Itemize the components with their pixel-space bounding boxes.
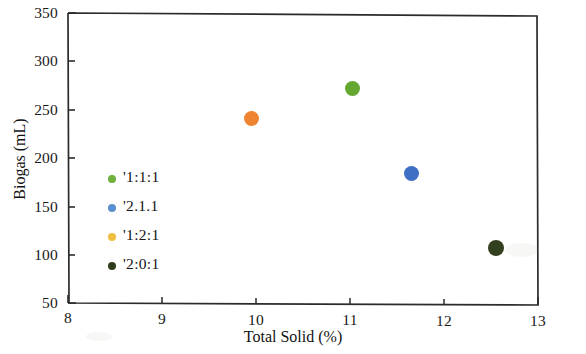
chart-axes-svg bbox=[0, 0, 586, 354]
legend-marker-icon bbox=[108, 204, 116, 212]
legend-marker-icon bbox=[108, 262, 116, 270]
scatter-chart-figure: 350 300 250 200 150 100 50 8 9 10 11 12 … bbox=[0, 0, 586, 354]
y-axis-tick-label: 100 bbox=[10, 246, 58, 264]
x-axis-tick-label: 10 bbox=[236, 311, 276, 329]
legend-label: '2.1.1 bbox=[123, 197, 159, 215]
x-axis-tick-label: 11 bbox=[330, 311, 370, 329]
data-point-2-0-1 bbox=[488, 240, 504, 256]
scan-artifact bbox=[86, 332, 112, 341]
y-axis-title: Biogas (mL) bbox=[11, 79, 29, 239]
x-axis-tick-label: 8 bbox=[48, 309, 88, 327]
legend-label: '2:0:1 bbox=[123, 255, 159, 273]
data-point-1-1-1 bbox=[345, 81, 360, 96]
legend-label: '1:2:1 bbox=[123, 226, 159, 244]
legend-marker-icon bbox=[108, 175, 116, 183]
legend-label: '1:1:1 bbox=[123, 168, 159, 186]
legend-marker-icon bbox=[108, 233, 116, 241]
data-point-1-2-1 bbox=[244, 111, 259, 126]
data-point-2-1-1 bbox=[404, 166, 419, 181]
scan-artifact bbox=[505, 243, 539, 257]
y-axis-tick-label: 300 bbox=[10, 52, 58, 70]
x-axis-tick-label: 9 bbox=[142, 310, 182, 328]
y-axis-tick-label: 350 bbox=[10, 4, 58, 22]
